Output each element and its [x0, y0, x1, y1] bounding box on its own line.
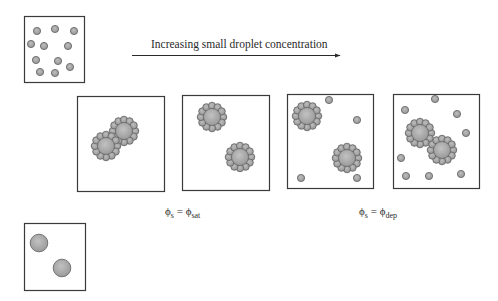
- free-small-droplet: [431, 95, 438, 102]
- large-droplet-core: [434, 142, 451, 159]
- free-small-droplet: [51, 69, 58, 76]
- arrow-label: Increasing small droplet concentration: [151, 38, 328, 50]
- equals-sign: =: [368, 205, 380, 217]
- large-droplets-reference-frame: [25, 224, 86, 291]
- free-small-droplet: [325, 96, 332, 103]
- free-small-droplet: [453, 110, 460, 117]
- free-small-droplet: [401, 106, 408, 113]
- free-small-droplet: [54, 57, 61, 64]
- free-small-droplet: [40, 42, 47, 49]
- free-small-droplet: [32, 56, 39, 63]
- phi-subscript: dep: [385, 211, 397, 220]
- free-small-droplet: [353, 116, 360, 123]
- free-small-droplet: [425, 172, 432, 179]
- large-droplet-core: [232, 149, 249, 166]
- free-small-droplet: [70, 27, 77, 34]
- free-small-droplet: [353, 174, 360, 181]
- free-small-droplet: [66, 63, 73, 70]
- large-droplet-core: [98, 138, 115, 155]
- large-droplet-core: [204, 109, 221, 126]
- free-small-droplet: [402, 172, 409, 179]
- free-small-droplet: [27, 40, 34, 47]
- free-small-droplet: [397, 154, 404, 161]
- saturation-condition-label: ϕs = ϕsat: [165, 205, 200, 220]
- free-small-droplet: [51, 25, 58, 32]
- large-droplet: [30, 234, 48, 252]
- panel-2-saturated-frame: [183, 96, 270, 191]
- free-small-droplet: [462, 129, 469, 136]
- free-small-droplet: [457, 170, 464, 177]
- free-small-droplet: [33, 27, 40, 34]
- phi-subscript: sat: [191, 211, 200, 220]
- large-droplet-core: [116, 123, 133, 140]
- large-droplet-core: [339, 150, 356, 167]
- equals-sign: =: [174, 205, 186, 217]
- large-droplet-core: [412, 125, 429, 142]
- free-small-droplet: [36, 68, 43, 75]
- large-droplet-core: [299, 108, 316, 125]
- large-droplet: [53, 259, 71, 277]
- free-small-droplet: [297, 174, 304, 181]
- free-small-droplet: [64, 42, 71, 49]
- depletion-condition-label: ϕs = ϕdep: [359, 205, 397, 220]
